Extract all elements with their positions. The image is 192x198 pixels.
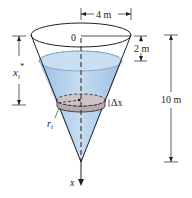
cone-rim (31, 23, 131, 47)
x-axis-label: x (69, 177, 75, 188)
slice-depth-sup: * (20, 62, 24, 71)
slice-radius-sub: i (51, 123, 53, 131)
height-dim-arrow-top (169, 35, 173, 40)
slice-center-dot (78, 99, 81, 102)
slice-thickness-label: Δx (111, 97, 122, 108)
height-dim-label: 10 m (161, 94, 182, 105)
slice-depth-label: xi* (12, 62, 24, 81)
offset-dim-arrow-bottom (139, 56, 143, 61)
height-dim-arrow-bottom (169, 157, 173, 162)
width-dim-arrow-right (126, 12, 131, 16)
slice-depth-arrow-bottom (17, 100, 21, 105)
slice-radius-label: ri (47, 118, 53, 131)
slice-depth-arrow-top (17, 36, 21, 41)
origin-label: 0 (71, 32, 76, 43)
x-axis-arrowhead (78, 179, 84, 186)
slice-radius-leader (55, 108, 59, 118)
offset-dim-label: 2 m (134, 43, 150, 54)
width-dim-arrow-left (81, 12, 86, 16)
conical-tank-diagram: x 0 4 m 2 m 10 m xi* Δx ri (0, 0, 192, 198)
slice-depth-sub: i (18, 73, 20, 81)
width-dim-label: 4 m (96, 9, 112, 20)
offset-dim-arrow-top (139, 36, 143, 41)
